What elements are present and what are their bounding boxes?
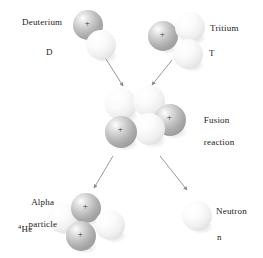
- label-alpha-line1: Alpha: [31, 197, 54, 207]
- arrow-fusion-to-alpha: [94, 156, 113, 188]
- label-neutron: Neutron: [216, 206, 262, 217]
- arrow-fusion-to-neutron: [160, 156, 187, 190]
- proton-charge-plus: +: [78, 229, 83, 239]
- label-fusion-line2: reaction: [204, 137, 235, 147]
- neutron-sphere: [105, 88, 137, 120]
- neutron-sphere: [182, 201, 212, 231]
- neutron-sphere: [133, 113, 165, 145]
- fusion-reaction-diagram: ++++++ Deuterium D Tritium T Fusion reac…: [0, 0, 263, 258]
- arrow-tritium-to-fusion: [152, 60, 172, 85]
- neutron-sphere: [175, 12, 205, 42]
- neutron-sphere: [95, 210, 125, 240]
- proton-charge-plus: +: [118, 124, 123, 134]
- neutron-sphere: [173, 39, 203, 69]
- label-deuterium: Deuterium: [22, 17, 84, 28]
- proton-charge-plus: +: [160, 29, 165, 39]
- proton-charge-plus: +: [167, 112, 172, 122]
- label-helium-element: He: [21, 224, 32, 234]
- label-fusion-line1: Fusion: [204, 115, 230, 125]
- particle-group-tritium: +: [148, 12, 205, 69]
- label-helium-symbol: 4He: [18, 221, 54, 235]
- label-tritium: Tritium: [210, 23, 260, 34]
- arrow-deuterium-to-fusion: [106, 59, 123, 86]
- proton-charge-plus: +: [83, 201, 88, 211]
- label-tritium-symbol: T: [209, 48, 229, 59]
- proton-charge-plus: +: [85, 18, 90, 28]
- label-neutron-symbol: n: [217, 232, 233, 243]
- label-fusion-reaction: Fusion reaction: [194, 104, 256, 159]
- label-deuterium-symbol: D: [46, 47, 66, 58]
- particle-group-neutron: [182, 201, 212, 231]
- neutron-sphere: [86, 30, 116, 60]
